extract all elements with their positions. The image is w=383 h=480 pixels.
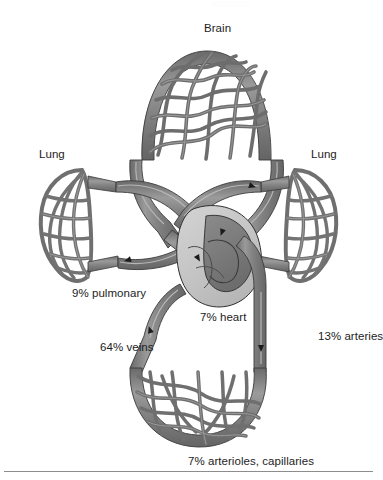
footer-divider [4,471,373,472]
label-capillaries-percent: 7% arterioles, capillaries [188,455,314,468]
label-lung-right: Lung [311,148,337,161]
lower-body-capillary-bed [130,368,266,447]
label-lung-left: Lung [39,148,65,161]
label-veins-percent: 64% veins [100,341,154,354]
label-pulmonary-percent: 9% pulmonary [72,287,146,300]
lung-left-capillary-bed [38,168,118,282]
label-heart-percent: 7% heart [200,311,246,324]
brain-capillary-bed [142,51,271,160]
label-brain: Brain [204,22,231,35]
label-arteries-percent: 13% arteries [318,330,383,343]
lung-right-capillary-bed [259,170,336,281]
